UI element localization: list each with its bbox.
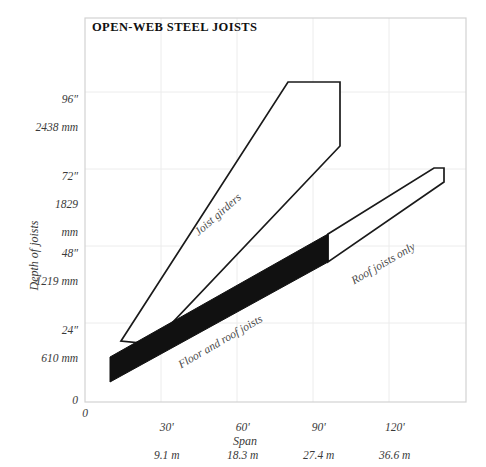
y-tick-24in-primary: 24″ xyxy=(62,324,78,336)
y-tick-24in: 24″ 610 mm xyxy=(0,309,78,379)
x-tick-30ft: 30' 9.1 m xyxy=(131,406,191,467)
x-tick-30ft-secondary: 9.1 m xyxy=(154,449,180,461)
x-tick-60ft-secondary: 18.3 m xyxy=(227,449,258,461)
y-tick-96in-secondary: 2438 mm xyxy=(36,121,79,133)
chart-figure: OPEN-WEB STEEL JOISTS 96″ 2438 mm 72″ 18… xyxy=(0,0,486,467)
y-axis-label: Depth of joists xyxy=(27,196,42,316)
y-tick-24in-secondary: 610 mm xyxy=(41,352,78,364)
x-tick-90ft: 90' 27.4 m xyxy=(283,406,343,467)
x-tick-90ft-primary: 90' xyxy=(312,421,326,433)
y-tick-0: 0 xyxy=(0,393,78,407)
y-tick-96in-primary: 96″ xyxy=(62,93,78,105)
x-axis-label: Span xyxy=(200,434,290,449)
x-tick-120ft-secondary: 36.6 m xyxy=(379,449,410,461)
x-tick-60ft-primary: 60' xyxy=(236,421,250,433)
y-tick-72in-primary: 72″ xyxy=(62,170,78,182)
y-tick-48in-secondary: 1219 mm xyxy=(36,275,79,287)
y-tick-48in-primary: 48″ xyxy=(62,247,78,259)
x-tick-120ft-primary: 120' xyxy=(385,421,405,433)
chart-title: OPEN-WEB STEEL JOISTS xyxy=(92,20,257,35)
x-tick-120ft: 120' 36.6 m xyxy=(359,406,419,467)
y-tick-72in-secondary: 1829 xyxy=(55,198,78,210)
x-tick-0: 0 xyxy=(65,406,105,420)
x-tick-30ft-primary: 30' xyxy=(160,421,174,433)
y-tick-96in: 96″ 2438 mm xyxy=(0,78,78,148)
x-tick-90ft-secondary: 27.4 m xyxy=(303,449,334,461)
